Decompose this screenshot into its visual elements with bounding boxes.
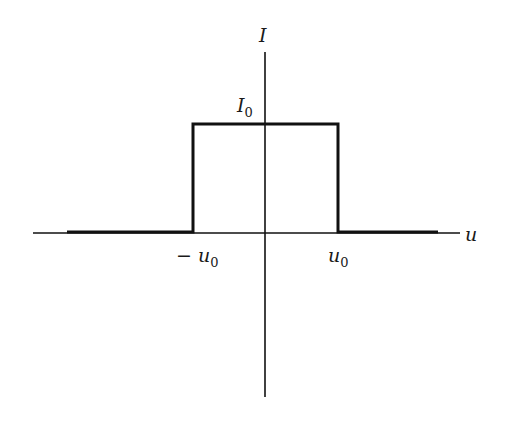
level-label-I0: I0 bbox=[236, 94, 253, 120]
top-hat-chart: I u I0 − u0 u0 bbox=[0, 0, 507, 424]
tick-label-neg-u0: − u0 bbox=[176, 244, 219, 270]
tick-label-u0: u0 bbox=[328, 244, 349, 270]
top-hat-curve bbox=[67, 124, 438, 232]
y-axis-label: I bbox=[258, 24, 267, 46]
x-axis-label: u bbox=[465, 223, 477, 245]
